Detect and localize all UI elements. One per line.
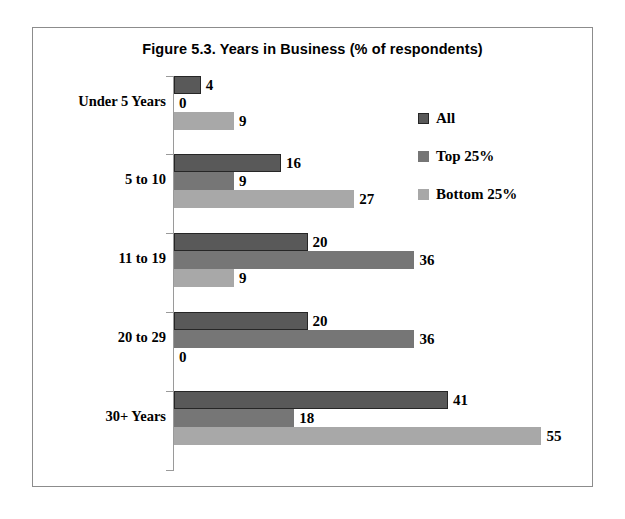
axis-tick [166, 233, 173, 234]
bar-value-label: 16 [281, 155, 301, 172]
bar-row: 20 [174, 233, 584, 251]
bar-value-label: 27 [354, 191, 374, 208]
bar-series-top[interactable] [174, 172, 234, 190]
bar-series-bottom[interactable] [174, 112, 234, 130]
category-label: 5 to 10 [34, 171, 166, 188]
legend-item[interactable]: Bottom 25% [418, 175, 578, 213]
axis-tick [166, 312, 173, 313]
bar-row: 36 [174, 330, 584, 348]
bar-row: 18 [174, 409, 584, 427]
bar-value-label: 18 [294, 410, 314, 427]
axis-tick [166, 154, 173, 155]
chart-legend: AllTop 25%Bottom 25% [418, 99, 578, 213]
legend-item[interactable]: All [418, 99, 578, 137]
category-label: 11 to 19 [34, 250, 166, 267]
bar-series-bottom[interactable] [174, 190, 354, 208]
bar-series-all[interactable] [174, 233, 308, 251]
bar-value-label: 9 [234, 173, 247, 190]
category-label: 20 to 29 [34, 329, 166, 346]
legend-label: Top 25% [436, 148, 494, 165]
bar-row: 4 [174, 76, 584, 94]
bar-series-all[interactable] [174, 312, 308, 330]
axis-tick [166, 391, 173, 392]
axis-tick [166, 76, 173, 77]
bar-row: 0 [174, 348, 584, 366]
bar-value-label: 41 [448, 392, 468, 409]
bar-value-label: 0 [174, 95, 187, 112]
legend-label: All [436, 110, 455, 127]
bar-row: 41 [174, 391, 584, 409]
legend-item[interactable]: Top 25% [418, 137, 578, 175]
category-label: 30+ Years [34, 408, 166, 425]
bar-row: 55 [174, 427, 584, 445]
bar-value-label: 36 [414, 252, 434, 269]
bar-series-top[interactable] [174, 409, 294, 427]
legend-swatch-icon [418, 113, 429, 124]
bar-series-all[interactable] [174, 391, 448, 409]
axis-tick [166, 470, 173, 471]
bar-value-label: 20 [308, 234, 328, 251]
bar-value-label: 9 [234, 270, 247, 287]
category-label: Under 5 Years [34, 93, 166, 110]
bar-row: 20 [174, 312, 584, 330]
bar-value-label: 0 [174, 349, 187, 366]
chart-title: Figure 5.3. Years in Business (% of resp… [33, 41, 592, 57]
legend-label: Bottom 25% [436, 186, 517, 203]
bar-series-bottom[interactable] [174, 427, 541, 445]
bar-value-label: 4 [201, 77, 214, 94]
bar-value-label: 36 [414, 331, 434, 348]
legend-swatch-icon [418, 151, 429, 162]
chart-frame: Figure 5.3. Years in Business (% of resp… [32, 27, 593, 487]
bar-series-top[interactable] [174, 330, 414, 348]
legend-swatch-icon [418, 189, 429, 200]
bar-value-label: 55 [541, 428, 561, 445]
bar-value-label: 9 [234, 113, 247, 130]
bar-series-bottom[interactable] [174, 269, 234, 287]
bar-series-all[interactable] [174, 76, 201, 94]
bar-series-top[interactable] [174, 251, 414, 269]
bar-row: 9 [174, 269, 584, 287]
bar-series-all[interactable] [174, 154, 281, 172]
bar-value-label: 20 [308, 313, 328, 330]
bar-row: 36 [174, 251, 584, 269]
